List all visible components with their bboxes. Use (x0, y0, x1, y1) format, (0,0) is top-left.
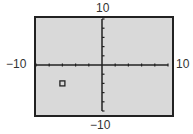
data-points (60, 81, 65, 86)
plot-svg (0, 0, 193, 134)
square-point-marker (60, 81, 65, 86)
y-max-label: 10 (96, 2, 109, 14)
x-max-label: 10 (176, 58, 189, 70)
axes (36, 19, 168, 111)
y-min-label: −10 (90, 119, 110, 131)
x-min-label: −10 (6, 58, 26, 70)
